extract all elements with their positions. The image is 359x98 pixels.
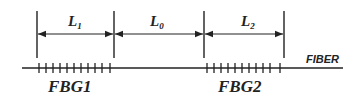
label-l0: L0 <box>149 13 164 31</box>
diagram-svg: L1 L0 L2 <box>0 0 359 98</box>
label-fbg2: FBG2 <box>217 77 262 96</box>
label-l2: L2 <box>240 13 255 31</box>
label-fbg1: FBG1 <box>47 77 91 96</box>
fbg-diagram: L1 L0 L2 <box>0 0 359 98</box>
label-fiber: FIBER <box>306 53 339 65</box>
label-l1: L1 <box>67 13 82 31</box>
